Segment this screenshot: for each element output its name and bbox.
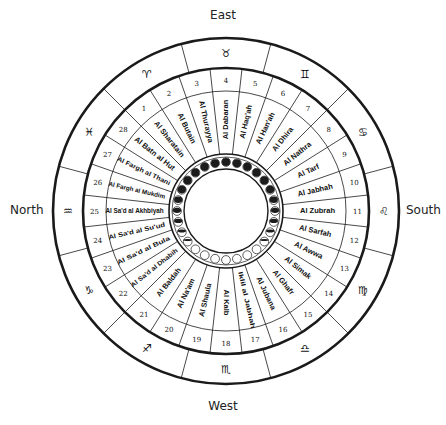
mansion-number: 24 bbox=[93, 237, 102, 245]
mansion-number: 26 bbox=[93, 179, 102, 187]
zodiac-divider bbox=[263, 44, 271, 73]
zodiac-divider bbox=[263, 349, 271, 378]
zodiac-divider bbox=[59, 248, 88, 256]
zodiac-sign-leo: ♌ bbox=[379, 205, 389, 218]
mansion-name: Al Zubrah bbox=[300, 206, 335, 215]
mansion-name: Al Sa'd al Akhbiyah bbox=[106, 207, 164, 215]
mansion-name: Al Haq'ah bbox=[238, 104, 254, 140]
mansion-number: 5 bbox=[253, 80, 257, 88]
mansion-name: Al Ghafr bbox=[271, 268, 297, 297]
mansion-number: 22 bbox=[119, 290, 128, 298]
moon-phase-shadow bbox=[270, 196, 278, 202]
moon-phase-shadow bbox=[252, 169, 260, 177]
mansion-name: Al Baldah bbox=[154, 266, 183, 299]
lunar-mansions-wheel: ♉♊♋♌♍♎♏♐♑♒♓♈ 1Al Sharatain2Al Butain3Al … bbox=[0, 0, 446, 425]
mansion-number: 9 bbox=[342, 151, 346, 159]
moon-phase-shadow bbox=[184, 176, 192, 184]
zodiac-sign-gemini: ♊ bbox=[300, 68, 310, 81]
moon-phase-icon bbox=[243, 251, 252, 260]
mansion-number: 17 bbox=[251, 336, 260, 344]
mansion-name: Iklil al Jabhah bbox=[237, 271, 257, 329]
moon-phase-icon bbox=[260, 237, 269, 246]
moon-phase-shadow bbox=[266, 186, 274, 194]
mansion-name: Al Dabaran bbox=[221, 99, 230, 139]
moon-phase-shadow bbox=[266, 230, 274, 233]
moon-phase-icon bbox=[191, 245, 200, 254]
moon-phase-shadow bbox=[201, 163, 209, 171]
mansion-number: 18 bbox=[222, 340, 231, 348]
mansion-divider bbox=[283, 217, 368, 227]
moon-phase-shadow bbox=[260, 239, 268, 241]
mansion-number: 19 bbox=[192, 336, 201, 344]
mansion-divider bbox=[232, 69, 242, 154]
moon-phase-shadow bbox=[173, 208, 181, 213]
mansion-number: 11 bbox=[353, 208, 362, 216]
zodiac-divider bbox=[181, 44, 189, 73]
zodiac-divider bbox=[327, 312, 348, 333]
moon-phase-shadow bbox=[174, 219, 182, 223]
mansion-divider bbox=[210, 268, 220, 353]
zodiac-divider bbox=[364, 248, 393, 256]
zodiac-divider bbox=[104, 312, 125, 333]
zodiac-divider bbox=[59, 166, 88, 174]
moon-phase-icon bbox=[233, 254, 242, 263]
moon-phase-icon bbox=[222, 256, 231, 265]
mansion-name: Al Simak bbox=[283, 254, 314, 281]
mansion-number: 25 bbox=[90, 208, 99, 216]
mansion-number: 7 bbox=[306, 105, 310, 113]
moon-phase-icon bbox=[211, 254, 220, 263]
zodiac-sign-capricorn: ♑ bbox=[84, 284, 94, 297]
zodiac-sign-pisces: ♓ bbox=[84, 126, 94, 139]
mansion-name: Al Nathra bbox=[281, 139, 313, 167]
moon-phase-shadow bbox=[174, 196, 182, 202]
moon-phase-shadow bbox=[178, 186, 186, 194]
zodiac-divider bbox=[181, 349, 189, 378]
moon-phase-icon bbox=[252, 245, 261, 254]
moon-phase-shadow bbox=[233, 159, 241, 167]
mansion-number: 14 bbox=[324, 290, 333, 298]
zodiac-divider bbox=[104, 89, 125, 110]
moon-phase-shadow bbox=[260, 176, 268, 184]
zodiac-sign-taurus: ♉ bbox=[221, 47, 231, 60]
mansion-number: 12 bbox=[350, 237, 359, 245]
mansion-name: Al Thurayya bbox=[197, 100, 216, 145]
mansion-name: Al Dhira bbox=[270, 124, 295, 153]
mansion-number: 27 bbox=[103, 151, 112, 159]
mansion-number: 28 bbox=[119, 126, 128, 134]
mansion-name: Al Butain bbox=[176, 112, 199, 146]
mansion-name: Al Sarfah bbox=[298, 223, 333, 239]
moon-phase-shadow bbox=[271, 208, 279, 213]
zodiac-sign-aries: ♈ bbox=[142, 68, 152, 81]
moon-phase-shadow bbox=[178, 230, 186, 233]
mansion-number: 1 bbox=[142, 105, 146, 113]
moon-phase-icon bbox=[183, 237, 192, 246]
zodiac-sign-sagittarius: ♐ bbox=[142, 342, 152, 355]
mansion-number: 6 bbox=[281, 90, 286, 98]
zodiac-divider bbox=[327, 89, 348, 110]
mansion-name: Al Jubana bbox=[254, 275, 278, 312]
zodiac-sign-virgo: ♍ bbox=[358, 284, 368, 297]
moon-ring-inner bbox=[184, 169, 268, 253]
mansion-number: 3 bbox=[195, 80, 199, 88]
mansion-number: 2 bbox=[167, 90, 171, 98]
moon-phase-shadow bbox=[211, 159, 219, 167]
zodiac-sign-cancer: ♋ bbox=[358, 126, 368, 139]
mansion-number: 4 bbox=[224, 77, 229, 85]
zodiac-sign-scorpio: ♏ bbox=[221, 363, 231, 376]
moon-phase-shadow bbox=[270, 219, 278, 223]
zodiac-divider bbox=[364, 166, 393, 174]
mansion-number: 20 bbox=[164, 326, 173, 334]
mansion-number: 16 bbox=[279, 326, 288, 334]
moon-phase-icon bbox=[200, 251, 209, 260]
moon-phase-shadow bbox=[184, 239, 192, 241]
mansion-name: Al Fargh al Mukdim bbox=[108, 180, 167, 201]
moon-phase-shadow bbox=[243, 163, 251, 171]
zodiac-sign-aquarius: ♒ bbox=[63, 205, 73, 218]
moon-phase-shadow bbox=[191, 169, 199, 177]
mansion-number: 10 bbox=[350, 179, 359, 187]
mansion-number: 15 bbox=[304, 311, 313, 319]
mansion-number: 21 bbox=[140, 311, 149, 319]
mansion-name: Al Awwa bbox=[293, 240, 325, 262]
mansion-name: Al Han'ah bbox=[254, 111, 277, 146]
mansion-number: 8 bbox=[327, 126, 331, 134]
